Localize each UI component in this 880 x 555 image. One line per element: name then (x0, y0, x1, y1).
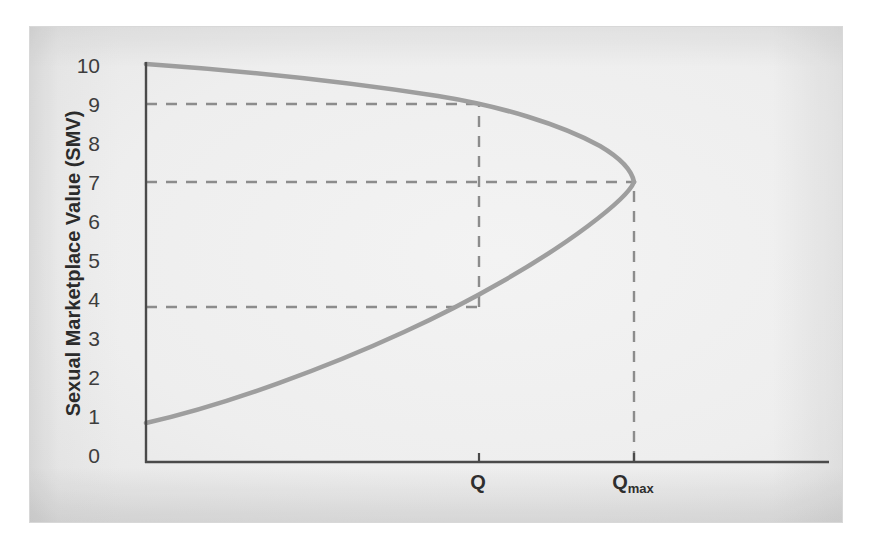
chart-plot-area (0, 0, 880, 555)
figure-page: Sexual Marketplace Value (SMV) 10 9 8 7 … (0, 0, 880, 555)
smv-curve-lower-branch (146, 182, 634, 423)
smv-curve-group (146, 64, 634, 423)
reference-lines-group (146, 104, 634, 462)
smv-curve-upper-branch (146, 64, 634, 182)
axes-group (145, 62, 829, 463)
